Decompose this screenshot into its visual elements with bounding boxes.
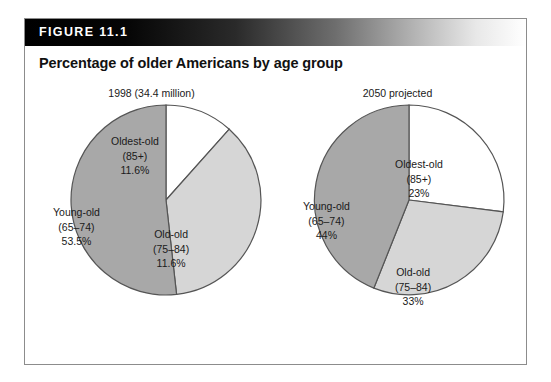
label-young-old-2050-percent: 44%: [303, 228, 350, 243]
label-young-old-2050: Young-old (65–74) 44%: [303, 199, 350, 243]
label-old-old-1998: Old-old (75–84) 11.6%: [153, 227, 189, 271]
label-young-old-1998-range: (65–74): [53, 220, 100, 235]
label-old-old-1998-name: Old-old: [153, 227, 189, 242]
label-young-old-2050-range: (65–74): [303, 214, 350, 229]
label-oldest-old-2050-percent: 23%: [395, 186, 443, 201]
pie-chart-1998-caption: 1998 (34.4 million): [29, 87, 274, 99]
label-young-old-1998-name: Young-old: [53, 205, 100, 220]
label-oldest-old-2050-name: Oldest-old: [395, 157, 443, 172]
label-old-old-1998-percent: 11.6%: [153, 256, 189, 271]
figure-header-bar: FIGURE 11.1: [25, 19, 526, 46]
figure-box: FIGURE 11.1 Percentage of older American…: [24, 18, 527, 365]
label-old-old-2050: Old-old (75–84) 33%: [395, 265, 431, 309]
label-oldest-old-1998-name: Oldest-old: [111, 134, 159, 149]
pie-chart-2050-caption: 2050 projected: [275, 87, 520, 99]
label-old-old-1998-range: (75–84): [153, 242, 189, 257]
label-young-old-1998: Young-old (65–74) 53.5%: [53, 205, 100, 249]
label-old-old-2050-name: Old-old: [395, 265, 431, 280]
label-old-old-2050-percent: 33%: [395, 294, 431, 309]
label-oldest-old-1998-percent: 11.6%: [111, 163, 159, 178]
label-oldest-old-1998: Oldest-old (85+) 11.6%: [111, 134, 159, 178]
label-young-old-2050-name: Young-old: [303, 199, 350, 214]
label-old-old-2050-range: (75–84): [395, 280, 431, 295]
label-oldest-old-2050-range: (85+): [395, 172, 443, 187]
label-oldest-old-2050: Oldest-old (85+) 23%: [395, 157, 443, 201]
label-oldest-old-1998-range: (85+): [111, 149, 159, 164]
label-young-old-1998-percent: 53.5%: [53, 234, 100, 249]
figure-number-label: FIGURE 11.1: [39, 25, 128, 39]
figure-title: Percentage of older Americans by age gro…: [39, 55, 343, 71]
